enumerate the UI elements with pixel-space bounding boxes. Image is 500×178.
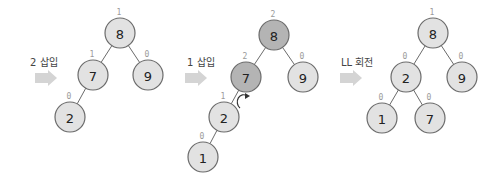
node-value: 7 xyxy=(242,71,250,86)
tree-edge xyxy=(77,88,86,104)
node-value: 2 xyxy=(402,71,410,86)
node-value: 7 xyxy=(426,112,434,127)
tree-node: 90 xyxy=(288,52,318,92)
tree-edge xyxy=(390,90,399,105)
balance-factor: 0 xyxy=(300,52,305,61)
step-label: 1 삽입 xyxy=(187,56,215,68)
node-value: 9 xyxy=(144,69,152,84)
balance-factor: 0 xyxy=(403,52,408,61)
node-value: 8 xyxy=(116,27,124,42)
tree-node: 10 xyxy=(367,93,397,133)
node-value: 2 xyxy=(220,111,228,126)
tree-edge xyxy=(128,45,139,62)
node-value: 8 xyxy=(429,27,437,42)
node-value: 9 xyxy=(458,71,466,86)
step-label: LL 회전 xyxy=(341,57,373,68)
balance-factor: 0 xyxy=(145,50,150,59)
tree-node: 71 xyxy=(78,50,108,90)
node-value: 7 xyxy=(89,69,97,84)
balance-factor: 2 xyxy=(271,10,276,19)
balance-factor: 0 xyxy=(67,92,72,101)
tree-node: 90 xyxy=(133,50,163,90)
node-value: 1 xyxy=(378,112,386,127)
balance-factor: 1 xyxy=(117,8,122,17)
tree-edge xyxy=(254,47,265,64)
tree-node: 81 xyxy=(105,8,135,48)
node-value: 2 xyxy=(66,111,74,126)
node-value: 9 xyxy=(299,71,307,86)
tree-node: 81 xyxy=(418,8,448,48)
balance-factor: 1 xyxy=(221,92,226,101)
balance-factor: 0 xyxy=(459,52,464,61)
tree-node: 20 xyxy=(391,52,421,92)
rotate-right-icon xyxy=(237,93,250,108)
balance-factor: 1 xyxy=(430,8,435,17)
node-value: 1 xyxy=(199,151,207,166)
step-arrow-icon xyxy=(340,70,362,86)
tree-node: 90 xyxy=(447,52,477,92)
tree-node: 70 xyxy=(415,93,445,133)
tree-edge xyxy=(210,130,217,143)
tree-edge xyxy=(283,47,295,64)
step-label: 2 삽입 xyxy=(30,56,58,68)
step-arrow-icon xyxy=(185,70,207,86)
tree-edge xyxy=(441,46,453,65)
tree-node: 82 xyxy=(259,10,289,50)
avl-rotation-diagram: 2 삽입1 삽입LL 회전 81719020827290211081209010… xyxy=(0,0,500,178)
balance-factor: 2 xyxy=(243,52,248,61)
tree-edge xyxy=(414,90,423,105)
tree-node: 72 xyxy=(231,52,261,92)
balance-factor: 0 xyxy=(379,93,384,102)
tree-edge xyxy=(101,46,112,63)
balance-factor: 0 xyxy=(200,132,205,141)
diagram-canvas: 2 삽입1 삽입LL 회전 81719020827290211081209010… xyxy=(0,0,500,178)
balance-factor: 1 xyxy=(90,50,95,59)
node-value: 8 xyxy=(270,29,278,44)
balance-factor: 0 xyxy=(427,93,432,102)
tree-edge xyxy=(414,46,425,64)
step-arrow-icon xyxy=(35,70,57,86)
